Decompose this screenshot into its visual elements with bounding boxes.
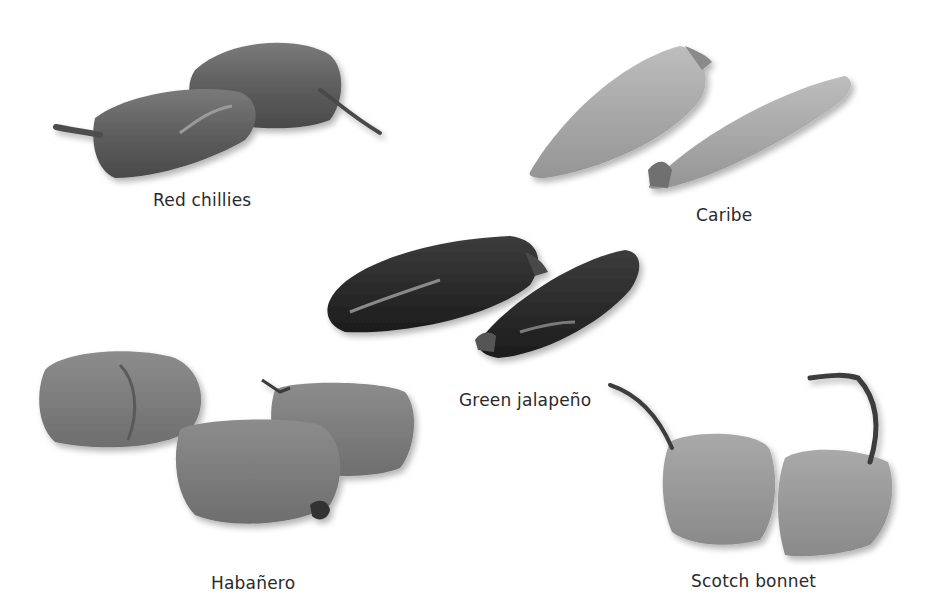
caribe-label: Caribe bbox=[696, 205, 752, 225]
scotch-bonnet-label: Scotch bonnet bbox=[691, 571, 816, 591]
green-jalapeno-label: Green jalapeño bbox=[459, 390, 591, 410]
caribe-image bbox=[530, 46, 851, 189]
green-jalapeno-image bbox=[327, 236, 639, 358]
red-chillies-label: Red chillies bbox=[153, 190, 251, 210]
scotch-bonnet-image bbox=[610, 375, 892, 556]
red-chillies-image bbox=[56, 43, 380, 178]
chillies-illustration bbox=[0, 0, 940, 605]
habanero-label: Habañero bbox=[211, 573, 295, 593]
habanero-image bbox=[39, 351, 414, 523]
